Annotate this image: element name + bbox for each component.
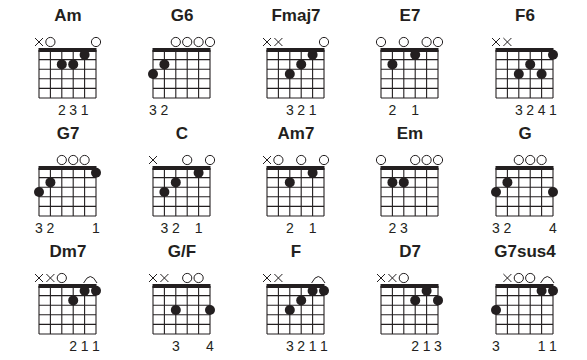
finger-dot	[399, 177, 409, 187]
finger-number: 3	[490, 221, 502, 235]
finger-number: 3	[147, 103, 159, 117]
finger-dot	[57, 59, 67, 69]
finger-dot	[296, 59, 306, 69]
finger-dot	[548, 286, 558, 296]
chord-g7sus4: G7sus4311	[468, 242, 582, 360]
open-string-icon	[399, 37, 408, 46]
finger-numbers: 213	[353, 339, 467, 353]
finger-numbers: 23	[353, 221, 467, 235]
muted-string-icon	[388, 274, 396, 282]
fretboard-diagram	[468, 242, 582, 352]
finger-dot	[422, 286, 432, 296]
chord-c: C321	[125, 124, 239, 244]
finger-dot	[537, 286, 547, 296]
finger-number: 1	[547, 339, 559, 353]
finger-number: 2	[44, 221, 56, 235]
finger-dot	[80, 50, 90, 60]
finger-dot	[285, 305, 295, 315]
finger-numbers: 321	[11, 221, 125, 235]
finger-number: 1	[421, 339, 433, 353]
muted-string-icon	[46, 274, 54, 282]
muted-string-icon	[263, 156, 271, 164]
open-string-icon	[537, 155, 546, 164]
finger-numbers: 3211	[239, 339, 353, 353]
finger-dot	[548, 187, 558, 197]
finger-dot	[410, 50, 420, 60]
finger-number: 1	[193, 221, 205, 235]
finger-number: 2	[295, 339, 307, 353]
finger-number: 3	[513, 103, 525, 117]
open-string-icon	[433, 37, 442, 46]
chord-g: G324	[468, 124, 582, 244]
muted-string-icon	[263, 38, 271, 46]
nut	[381, 48, 439, 52]
fretboard-diagram	[353, 242, 467, 352]
open-string-icon	[183, 155, 192, 164]
finger-numbers: 311	[468, 339, 582, 353]
fretboard-diagram	[125, 124, 239, 234]
finger-dot	[45, 177, 55, 187]
finger-number: 2	[501, 221, 513, 235]
finger-dot	[491, 305, 501, 315]
chord-f: F3211	[239, 242, 353, 360]
open-string-icon	[205, 37, 214, 46]
open-string-icon	[69, 155, 78, 164]
finger-numbers: 3241	[468, 103, 582, 117]
finger-dot	[387, 59, 397, 69]
finger-dot	[285, 177, 295, 187]
finger-number: 3	[158, 221, 170, 235]
chord-am7: Am721	[239, 124, 353, 244]
muted-string-icon	[160, 274, 168, 282]
finger-number: 1	[90, 221, 102, 235]
finger-number: 3	[67, 103, 79, 117]
fretboard-diagram	[468, 6, 582, 116]
finger-numbers: 211	[11, 339, 125, 353]
open-string-icon	[376, 37, 385, 46]
finger-number: 1	[536, 339, 548, 353]
open-string-icon	[57, 273, 66, 282]
open-string-icon	[399, 273, 408, 282]
finger-number: 1	[318, 339, 330, 353]
fretboard-diagram	[125, 6, 239, 116]
finger-number: 1	[90, 339, 102, 353]
nut	[153, 48, 211, 52]
finger-number: 3	[432, 339, 444, 353]
finger-dot	[502, 177, 512, 187]
fretboard-diagram	[468, 124, 582, 234]
muted-string-icon	[492, 38, 500, 46]
finger-numbers: 21	[239, 221, 353, 235]
finger-number: 1	[307, 339, 319, 353]
finger-dot	[296, 295, 306, 305]
open-string-icon	[80, 155, 89, 164]
finger-number: 1	[409, 103, 421, 117]
finger-dot	[80, 286, 90, 296]
open-string-icon	[526, 273, 535, 282]
chord-f6: F63241	[468, 6, 582, 126]
finger-number: 1	[547, 103, 559, 117]
chord-em: Em23	[353, 124, 467, 244]
finger-dot	[205, 305, 215, 315]
open-string-icon	[514, 273, 523, 282]
nut	[39, 166, 97, 170]
fretboard-diagram	[353, 124, 467, 234]
nut	[496, 166, 554, 170]
finger-number: 2	[295, 103, 307, 117]
muted-string-icon	[149, 274, 157, 282]
chord-d7: D7213	[353, 242, 467, 360]
open-string-icon	[514, 155, 523, 164]
nut	[153, 284, 211, 288]
open-string-icon	[194, 37, 203, 46]
finger-number: 3	[284, 103, 296, 117]
muted-string-icon	[274, 274, 282, 282]
finger-number: 3	[490, 339, 502, 353]
barre-arc-icon	[84, 277, 97, 284]
finger-number: 3	[170, 339, 182, 353]
finger-number: 1	[79, 339, 91, 353]
open-string-icon	[57, 155, 66, 164]
barre-arc-icon	[541, 277, 554, 284]
finger-number: 4	[547, 221, 559, 235]
finger-dot	[194, 168, 204, 178]
finger-dot	[548, 50, 558, 60]
chord-dm7: Dm7211	[11, 242, 125, 360]
finger-dot	[91, 168, 101, 178]
